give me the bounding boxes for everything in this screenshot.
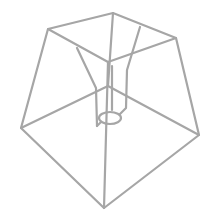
vertical-struts	[21, 13, 199, 208]
bottom-ring	[21, 86, 199, 208]
lampshade-frame-illustration	[0, 0, 211, 221]
lampshade-frame-drawing	[0, 0, 211, 221]
fitter-ring	[97, 112, 121, 126]
